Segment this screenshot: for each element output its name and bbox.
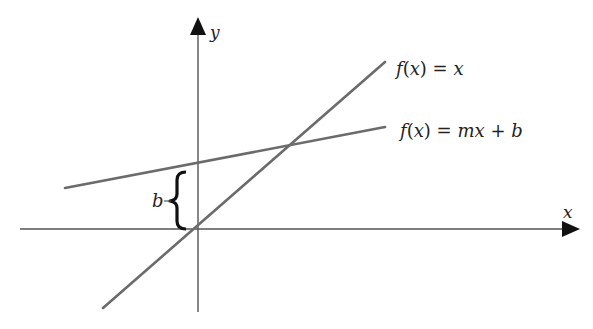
identity-line xyxy=(103,62,385,308)
linear-function-diagram: x y f(x) = x f(x) = mx + b b xyxy=(0,0,593,329)
intercept-label: b xyxy=(152,190,164,211)
linear-line-label: f(x) = mx + b xyxy=(398,120,523,141)
intercept-brace-icon xyxy=(164,172,186,229)
linear-line xyxy=(65,127,385,188)
x-axis-label: x xyxy=(563,202,573,222)
x-axis: x xyxy=(20,202,580,237)
y-axis-label: y xyxy=(209,22,220,42)
y-axis-arrowhead-icon xyxy=(190,17,206,35)
identity-line-label: f(x) = x xyxy=(394,58,464,79)
x-axis-arrowhead-icon xyxy=(562,221,580,237)
